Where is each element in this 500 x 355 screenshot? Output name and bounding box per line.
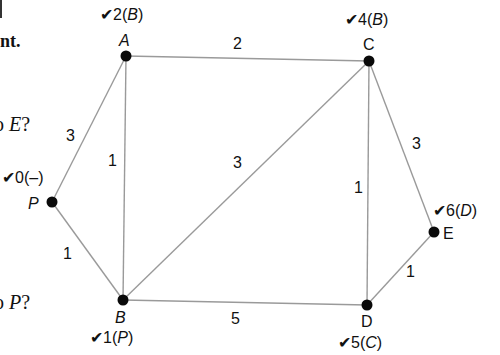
edge-b-c (123, 61, 369, 300)
node-label-c: C (363, 37, 375, 53)
edges (52, 56, 434, 305)
node-label-a: A (119, 33, 130, 49)
weight-c-e: 3 (412, 136, 421, 152)
node-label-d: D (361, 314, 373, 330)
node-mark-p: ✔0(–) (2, 170, 43, 186)
edge-b-d (123, 300, 367, 305)
node-mark-d: ✔5(C) (338, 335, 382, 351)
node-e (429, 227, 440, 238)
edge-a-b (123, 56, 126, 300)
check-icon: ✔ (2, 169, 15, 186)
check-icon: ✔ (433, 202, 446, 219)
weight-p-b: 1 (63, 246, 72, 262)
weighted-graph (0, 0, 500, 355)
weight-b-d: 5 (231, 311, 240, 327)
check-icon: ✔ (345, 11, 358, 28)
node-label-b: B (115, 310, 126, 326)
node-label-e: E (443, 226, 454, 242)
edge-d-e (367, 232, 434, 305)
node-mark-e: ✔6(D) (433, 203, 477, 219)
weight-c-d: 1 (354, 180, 363, 196)
weight-d-e: 1 (406, 264, 415, 280)
edge-c-e (369, 61, 434, 232)
node-mark-a: ✔2(B) (100, 7, 143, 23)
weight-b-c: 3 (233, 155, 242, 171)
node-c (364, 56, 375, 67)
weight-a-c: 2 (233, 36, 242, 52)
weight-a-b: 1 (108, 153, 117, 169)
node-b (118, 295, 129, 306)
edge-c-d (367, 61, 369, 305)
edge-a-c (126, 56, 369, 61)
node-mark-c: ✔4(B) (345, 12, 388, 28)
node-mark-b: ✔1(P) (90, 330, 133, 346)
check-icon: ✔ (338, 334, 351, 351)
edge-p-a (52, 56, 126, 202)
node-d (362, 300, 373, 311)
check-icon: ✔ (100, 6, 113, 23)
node-p (47, 197, 58, 208)
weight-p-a: 3 (66, 128, 75, 144)
node-label-p: P (28, 196, 39, 212)
node-a (121, 51, 132, 62)
check-icon: ✔ (90, 329, 103, 346)
